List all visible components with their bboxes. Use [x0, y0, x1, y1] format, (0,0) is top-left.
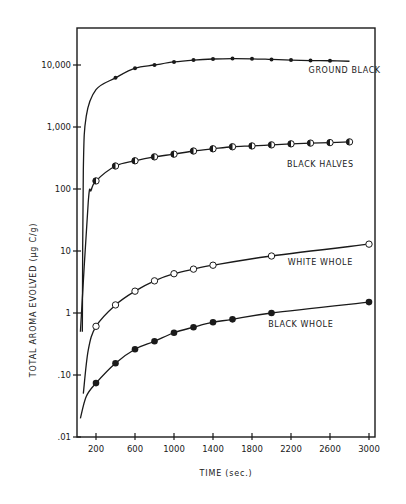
black-whole-point	[268, 310, 275, 317]
plot-border	[77, 28, 375, 437]
white-whole-point	[151, 278, 157, 284]
y-tick-label: .01	[57, 432, 71, 442]
x-tick-label: 2600	[319, 444, 341, 454]
black-halves-line	[80, 142, 349, 332]
black-halves-point	[151, 154, 157, 160]
ground-black-point	[153, 63, 157, 67]
white-whole-point	[366, 241, 372, 247]
series-labels: GROUND BLACKBLACK HALVESWHITE WHOLEBLACK…	[268, 66, 381, 329]
y-tick-label: 1,000	[47, 122, 71, 132]
black-halves-point	[210, 146, 216, 152]
black-halves-point	[93, 178, 99, 184]
chart: 200600100014001800220026003000 .01.10110…	[0, 0, 406, 504]
black-whole-point	[366, 299, 373, 306]
black-whole-point	[112, 360, 119, 367]
y-tick-label: 10,000	[41, 60, 71, 70]
x-tick-label: 2200	[280, 444, 302, 454]
black-halves-point	[268, 142, 274, 148]
ground-black-point	[250, 57, 254, 61]
x-tick-label: 200	[88, 444, 104, 454]
ground-black-point	[133, 66, 137, 70]
ground-black-point	[231, 57, 235, 61]
ground-black-label: GROUND BLACK	[309, 66, 381, 75]
black-whole-point	[229, 316, 236, 323]
y-tick-label: .10	[57, 370, 71, 380]
y-tick-label: 1	[66, 308, 71, 318]
black-whole-point	[93, 380, 100, 387]
ground-black-line	[82, 59, 349, 332]
series-markers	[93, 57, 373, 387]
black-halves-point	[132, 158, 138, 164]
white-whole-point	[132, 288, 138, 294]
white-whole-point	[268, 253, 274, 259]
x-tick-label: 1400	[202, 444, 224, 454]
ground-black-point	[289, 58, 293, 62]
black-whole-point	[132, 346, 139, 353]
ground-black-point	[328, 59, 332, 63]
x-tick-label: 1000	[163, 444, 185, 454]
series-curves	[80, 59, 369, 419]
black-whole-point	[210, 319, 217, 326]
black-whole-label: BLACK WHOLE	[268, 320, 333, 329]
black-halves-point	[112, 163, 118, 169]
x-tick-label: 1800	[241, 444, 263, 454]
black-halves-point	[288, 141, 294, 147]
white-whole-point	[112, 302, 118, 308]
black-halves-point	[249, 143, 255, 149]
black-halves-point	[307, 140, 313, 146]
white-whole-point	[210, 262, 216, 268]
black-halves-label: BLACK HALVES	[287, 160, 354, 169]
black-whole-point	[190, 324, 197, 331]
white-whole-point	[171, 271, 177, 277]
black-halves-point	[346, 139, 352, 145]
ground-black-point	[192, 58, 196, 62]
ground-black-point	[270, 57, 274, 61]
x-tick-label: 3000	[358, 444, 380, 454]
ground-black-point	[211, 57, 215, 61]
x-axis-title: TIME (sec.)	[199, 469, 253, 478]
ground-black-point	[309, 59, 313, 63]
ground-black-point	[114, 76, 118, 80]
ground-black-point	[172, 60, 176, 64]
black-halves-point	[327, 139, 333, 145]
x-tick-label: 600	[127, 444, 143, 454]
white-whole-point	[93, 323, 99, 329]
y-axis-title: TOTAL AROMA EVOLVED (µg C/g)	[29, 223, 38, 378]
y-tick-label: 100	[55, 184, 71, 194]
x-axis-ticks: 200600100014001800220026003000	[88, 433, 380, 454]
black-whole-point	[151, 338, 158, 345]
plot-frame	[77, 28, 375, 437]
y-axis-ticks: .01.101101001,00010,000	[41, 60, 81, 442]
y-tick-label: 10	[60, 246, 71, 256]
black-whole-point	[171, 329, 178, 336]
black-halves-point	[229, 144, 235, 150]
black-halves-point	[190, 148, 196, 154]
black-halves-point	[171, 151, 177, 157]
white-whole-point	[190, 266, 196, 272]
white-whole-label: WHITE WHOLE	[288, 258, 353, 267]
